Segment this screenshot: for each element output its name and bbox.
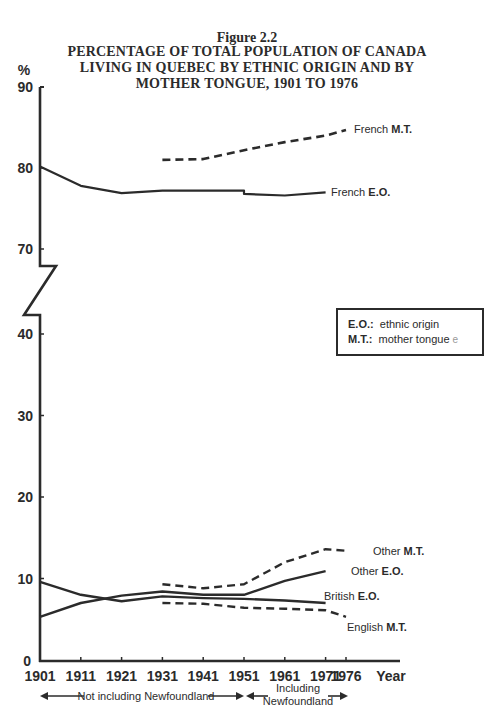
series-label-name: French <box>331 186 368 198</box>
series-line-french-e-o <box>40 166 326 195</box>
series-label-code: E.O. <box>382 565 404 577</box>
y-tick-label: 10 <box>17 571 33 587</box>
legend-box: E.O.: ethnic origin M.T.: mother tongue … <box>336 308 484 356</box>
y-unit-label: % <box>18 62 31 78</box>
series-label-name: British <box>324 590 358 602</box>
arrow-right-head-2 <box>340 692 348 700</box>
x-tick-label: 1911 <box>66 668 97 684</box>
series-label-other-mt: Other M.T. <box>373 545 424 557</box>
y-tick-label: 70 <box>17 241 33 257</box>
series-label-english-mt: English M.T. <box>347 621 407 633</box>
series-line-other-m-t <box>162 549 346 588</box>
series-label-name: Other <box>373 545 404 557</box>
legend-item-mt: M.T.: mother tongue e <box>348 332 482 347</box>
series-label-name: Other <box>351 565 382 577</box>
arrow-left-head <box>40 692 48 700</box>
x-tick-label: 1901 <box>24 668 55 684</box>
series-label-code: E.O. <box>358 590 380 602</box>
legend-item-eo: E.O.: ethnic origin <box>348 317 482 332</box>
series-label-code: M.T. <box>404 545 425 557</box>
x-tick-label: 1921 <box>106 668 137 684</box>
y-tick-label: 80 <box>17 160 33 176</box>
x-tick-label: 1976 <box>330 668 361 684</box>
y-tick-label: 90 <box>17 79 33 95</box>
including-label: Including <box>276 682 320 694</box>
series-label-other-eo: Other E.O. <box>351 565 404 577</box>
series-line-french-m-t <box>162 130 346 160</box>
y-tick-label: 0 <box>23 653 31 669</box>
series-label-french-mt: French M.T. <box>354 123 412 135</box>
x-tick-label: 1941 <box>188 668 219 684</box>
series-label-british-eo: British E.O. <box>324 590 380 602</box>
y-tick-label: 40 <box>17 326 33 342</box>
x-tick-label: 1951 <box>228 668 259 684</box>
not-including-newfoundland-label: Not including Newfoundland <box>78 690 215 702</box>
x-tick-label: 1931 <box>147 668 178 684</box>
series-label-name: English <box>347 621 386 633</box>
y-tick-label: 30 <box>17 408 33 424</box>
series-label-code: M.T. <box>391 123 412 135</box>
series-label-name: French <box>354 123 391 135</box>
series-line-english-m-t <box>162 603 346 617</box>
series-label-code: E.O. <box>368 186 390 198</box>
series-label-code: M.T. <box>386 621 407 633</box>
series-label-french-eo: French E.O. <box>331 186 390 198</box>
arrow-right-head <box>236 692 244 700</box>
x-axis-title: Year <box>376 668 406 684</box>
newfoundland-label: Newfoundland <box>263 695 333 707</box>
y-tick-label: 20 <box>17 489 33 505</box>
